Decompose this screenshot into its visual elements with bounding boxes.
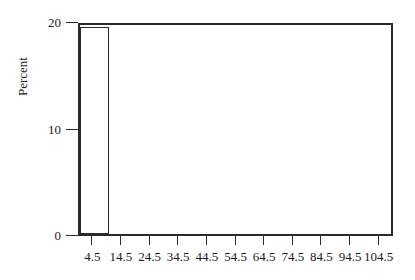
x-axis-tick [263, 236, 264, 245]
x-axis-tick-label: 24.5 [138, 250, 161, 263]
y-axis-tick-label: 20 [48, 16, 61, 29]
histogram-chart: Percent 20100 4.514.524.534.544.554.564.… [0, 0, 415, 280]
x-axis-tick-label: 74.5 [281, 250, 304, 263]
x-axis-tick-label: 64.5 [253, 250, 276, 263]
x-axis-tick [320, 236, 321, 245]
x-axis-tick [91, 236, 92, 245]
x-axis-tick [149, 236, 150, 245]
x-axis-tick [206, 236, 207, 245]
histogram-bar [80, 27, 109, 234]
y-axis-tick [66, 22, 78, 23]
plot-area [78, 23, 393, 236]
x-axis-tick-label: 104.5 [364, 250, 393, 263]
y-axis-tick [66, 235, 78, 236]
y-axis-tick-label: 0 [55, 229, 62, 242]
x-axis-tick [177, 236, 178, 245]
x-axis-tick-label: 44.5 [195, 250, 218, 263]
y-axis-tick [66, 129, 78, 130]
x-axis-tick-label: 34.5 [167, 250, 190, 263]
x-axis-tick [235, 236, 236, 245]
x-axis-tick-label: 84.5 [310, 250, 333, 263]
x-axis-tick [120, 236, 121, 245]
x-axis-tick-label: 94.5 [339, 250, 362, 263]
x-axis-tick [349, 236, 350, 245]
x-axis-tick [378, 236, 379, 245]
bars-layer [80, 25, 391, 234]
x-axis-tick-label: 14.5 [110, 250, 133, 263]
x-axis-tick-label: 4.5 [84, 250, 100, 263]
x-axis-tick-label: 54.5 [224, 250, 247, 263]
y-axis-title: Percent [16, 57, 29, 96]
y-axis-tick-label: 10 [48, 123, 61, 136]
x-axis-tick [292, 236, 293, 245]
